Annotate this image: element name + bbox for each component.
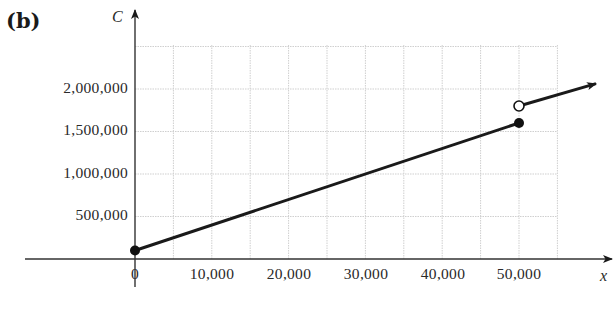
x-tick-label: 0 (131, 265, 139, 283)
x-tick-label: 10,000 (190, 265, 234, 283)
data-lines (130, 84, 596, 256)
grid (135, 45, 557, 259)
y-tick-label: 1,000,000 (63, 164, 128, 182)
y-tick-label: 1,500,000 (63, 121, 128, 139)
y-tick-label: 500,000 (76, 206, 128, 224)
y-axis-label: C (112, 8, 123, 26)
x-tick-label: 20,000 (267, 265, 311, 283)
axes (25, 10, 612, 287)
x-tick-label: 30,000 (344, 265, 388, 283)
open-point (514, 101, 524, 111)
x-tick-label: 50,000 (497, 265, 541, 283)
y-tick-label: 2,000,000 (63, 79, 128, 97)
x-tick-label: 40,000 (421, 265, 465, 283)
filled-point (514, 118, 524, 128)
x-axis-label: x (600, 267, 607, 285)
filled-point (130, 246, 140, 256)
